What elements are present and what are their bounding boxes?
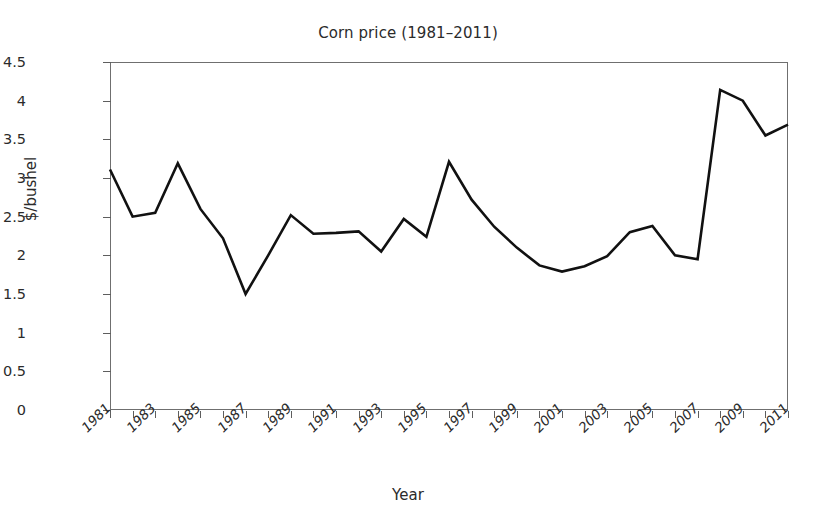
- y-tick-label: 2.5: [0, 209, 26, 225]
- y-tick-label: 1.5: [0, 286, 26, 302]
- chart-title: Corn price (1981–2011): [0, 24, 816, 42]
- y-tick-label: 1: [0, 325, 26, 341]
- y-tick-label: 3.5: [0, 131, 26, 147]
- y-tick-label: 2: [0, 247, 26, 263]
- y-tick-label: 4: [0, 93, 26, 109]
- series-polyline: [110, 90, 788, 294]
- x-tick-label: 1981: [78, 400, 114, 436]
- y-tick-label: 4.5: [0, 54, 26, 70]
- y-tick-label: 0: [0, 402, 26, 418]
- chart-canvas: Corn price (1981–2011) $/bushel 00.511.5…: [0, 0, 816, 521]
- y-tick-label: 0.5: [0, 363, 26, 379]
- y-tick-label: 3: [0, 170, 26, 186]
- line-series-corn-price: [110, 62, 788, 410]
- x-axis-title: Year: [0, 486, 816, 504]
